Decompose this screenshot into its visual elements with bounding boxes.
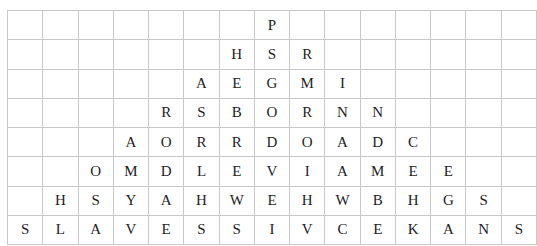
letter-cell [501, 40, 536, 69]
letter-cell: C [325, 215, 360, 244]
letter-cell: L [184, 157, 219, 186]
letter-cell [501, 11, 536, 40]
letter-cell [466, 40, 501, 69]
letter-cell [8, 128, 43, 157]
letter-cell: A [149, 186, 184, 215]
letter-cell: B [360, 186, 395, 215]
letter-cell [184, 11, 219, 40]
letter-grid-row: HSYAHWEHWBHGS [8, 186, 537, 215]
letter-cell: R [290, 98, 325, 127]
letter-cell [8, 69, 43, 98]
letter-cell [8, 186, 43, 215]
letter-cell: G [254, 69, 289, 98]
letter-cell [395, 98, 430, 127]
letter-cell: M [113, 157, 148, 186]
letter-cell: A [325, 157, 360, 186]
letter-cell: H [395, 186, 430, 215]
letter-cell: B [219, 98, 254, 127]
letter-cell [78, 40, 113, 69]
letter-cell [325, 11, 360, 40]
letter-cell: M [290, 69, 325, 98]
letter-cell [78, 69, 113, 98]
letter-cell: E [254, 186, 289, 215]
letter-cell: A [184, 69, 219, 98]
letter-cell [501, 186, 536, 215]
letter-grid-row: OMDLEVIAMEE [8, 157, 537, 186]
letter-cell: E [431, 157, 466, 186]
letter-cell: A [78, 215, 113, 244]
letter-cell: E [149, 215, 184, 244]
letter-cell [184, 40, 219, 69]
letter-cell [149, 11, 184, 40]
letter-cell [360, 69, 395, 98]
letter-grid-row: AEGMI [8, 69, 537, 98]
letter-cell [466, 11, 501, 40]
letter-cell: S [466, 186, 501, 215]
letter-grid-row: SLAVESSIVCEKANS [8, 215, 537, 244]
letter-cell: E [219, 69, 254, 98]
letter-cell [501, 157, 536, 186]
letter-cell: O [149, 128, 184, 157]
letter-cell [149, 40, 184, 69]
letter-grid-table: PHSRAEGMIRSBORNNAORRDOADCOMDLEVIAMEEHSYA… [7, 10, 537, 245]
letter-cell [466, 69, 501, 98]
letter-cell [43, 40, 78, 69]
letter-cell: K [395, 215, 430, 244]
letter-cell: H [219, 40, 254, 69]
letter-cell: N [360, 98, 395, 127]
letter-cell: R [219, 128, 254, 157]
letter-cell: G [431, 186, 466, 215]
letter-cell: D [360, 128, 395, 157]
letter-cell: S [501, 215, 536, 244]
letter-cell [395, 40, 430, 69]
letter-cell [8, 11, 43, 40]
letter-cell: W [219, 186, 254, 215]
letter-cell [149, 69, 184, 98]
letter-cell [43, 11, 78, 40]
letter-cell [219, 11, 254, 40]
letter-cell [466, 98, 501, 127]
letter-cell: H [184, 186, 219, 215]
letter-cell [78, 128, 113, 157]
letter-cell: D [254, 128, 289, 157]
letter-cell: S [8, 215, 43, 244]
letter-cell [395, 11, 430, 40]
letter-cell [78, 11, 113, 40]
letter-cell: H [43, 186, 78, 215]
letter-cell: I [254, 215, 289, 244]
letter-cell: S [184, 98, 219, 127]
letter-cell: I [290, 157, 325, 186]
letter-cell: W [325, 186, 360, 215]
letter-cell: O [254, 98, 289, 127]
letter-cell: N [325, 98, 360, 127]
letter-cell [360, 11, 395, 40]
letter-cell: O [78, 157, 113, 186]
letter-cell [43, 157, 78, 186]
letter-cell [113, 11, 148, 40]
letter-cell [395, 69, 430, 98]
letter-cell [325, 40, 360, 69]
letter-cell: V [113, 215, 148, 244]
letter-cell [431, 11, 466, 40]
letter-grid-body: PHSRAEGMIRSBORNNAORRDOADCOMDLEVIAMEEHSYA… [8, 11, 537, 245]
letter-cell: V [290, 215, 325, 244]
letter-cell: S [78, 186, 113, 215]
letter-cell: R [149, 98, 184, 127]
letter-cell [8, 157, 43, 186]
letter-cell [43, 128, 78, 157]
letter-cell [431, 69, 466, 98]
letter-cell: R [184, 128, 219, 157]
letter-cell [466, 128, 501, 157]
letter-cell [431, 40, 466, 69]
letter-cell [501, 128, 536, 157]
letter-cell: O [290, 128, 325, 157]
letter-cell [113, 98, 148, 127]
letter-cell: C [395, 128, 430, 157]
letter-grid-row: HSR [8, 40, 537, 69]
letter-cell [8, 40, 43, 69]
letter-cell: E [219, 157, 254, 186]
letter-cell: S [219, 215, 254, 244]
letter-cell: E [395, 157, 430, 186]
letter-cell: L [43, 215, 78, 244]
letter-cell [360, 40, 395, 69]
